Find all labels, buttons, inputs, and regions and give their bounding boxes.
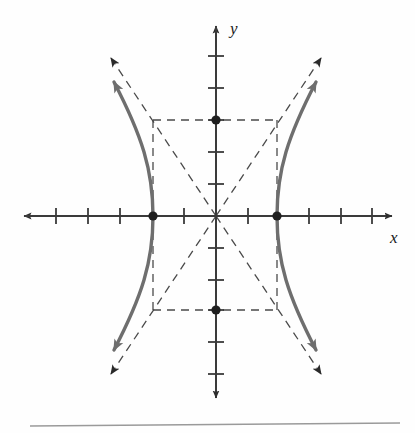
right-branch-lower <box>277 216 316 350</box>
top-co-vertex-dot <box>211 115 220 124</box>
left-vertex-dot <box>148 211 157 220</box>
bottom-divider-rule <box>30 423 400 426</box>
graph-canvas: y x <box>0 0 415 433</box>
asymptote-negative-slope-upper <box>111 58 216 216</box>
asymptote-positive-slope-lower <box>111 216 216 374</box>
left-branch-lower <box>114 216 153 350</box>
y-axis-label: y <box>228 19 238 38</box>
right-branch-upper <box>277 82 316 216</box>
asymptote-positive-slope-upper <box>216 58 321 216</box>
left-branch-upper <box>114 82 153 216</box>
right-vertex-dot <box>272 211 281 220</box>
axes-group <box>24 26 392 398</box>
hyperbola-figure: y x <box>0 0 415 433</box>
asymptote-negative-slope-lower <box>216 216 321 374</box>
bottom-co-vertex-dot <box>211 305 220 314</box>
x-axis-label: x <box>389 228 398 247</box>
